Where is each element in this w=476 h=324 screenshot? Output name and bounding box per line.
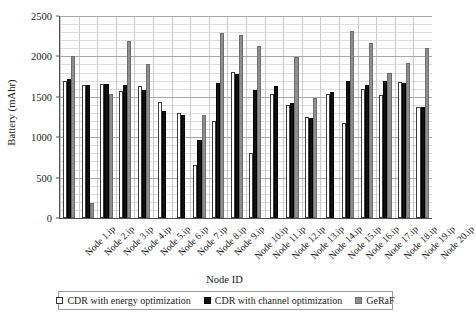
bar (369, 43, 373, 218)
bar (220, 33, 224, 218)
bar-group (134, 16, 153, 218)
legend-label: CDR with energy optimization (67, 295, 190, 306)
bar (274, 86, 278, 219)
bar-group (302, 16, 321, 218)
bar (294, 57, 298, 218)
bar (350, 31, 354, 218)
bar (146, 64, 150, 218)
legend-item[interactable]: CDR with channel optimization (204, 295, 342, 306)
bar-group (395, 16, 414, 218)
bar (406, 63, 410, 218)
bar-group (265, 16, 284, 218)
bar-group (339, 16, 358, 218)
bar (162, 111, 166, 218)
bar (90, 203, 94, 218)
legend-item[interactable]: GeRaF (355, 295, 394, 306)
y-tick-label: 2000 (31, 51, 52, 62)
legend-swatch-icon (204, 297, 211, 304)
bar-group (60, 16, 79, 218)
legend-swatch-icon (56, 297, 63, 304)
chart-legend: CDR with energy optimizationCDR with cha… (58, 291, 393, 310)
bar (387, 73, 391, 218)
bar-group (227, 16, 246, 218)
bar (425, 48, 429, 218)
y-tick-label: 0 (47, 213, 52, 224)
bar-group (209, 16, 228, 218)
bar-group (172, 16, 191, 218)
bar (71, 56, 75, 218)
bar-group (153, 16, 172, 218)
y-tick-label: 1500 (31, 91, 52, 102)
bar-group (376, 16, 395, 218)
legend-label: GeRaF (366, 295, 394, 306)
bar (86, 85, 90, 218)
bar-group (97, 16, 116, 218)
bar-group (320, 16, 339, 218)
x-axis-title: Node ID (0, 274, 449, 285)
bar-groups (60, 16, 432, 218)
bar-group (283, 16, 302, 218)
bar (109, 94, 113, 218)
bar-group (79, 16, 98, 218)
y-tick-label: 500 (36, 172, 52, 183)
bar-group (190, 16, 209, 218)
bar-group (116, 16, 135, 218)
bar-group (246, 16, 265, 218)
bar-group (413, 16, 432, 218)
y-tick-label: 2500 (31, 11, 52, 22)
bar (239, 35, 243, 218)
bar (202, 115, 206, 218)
y-tick-label: 1000 (31, 132, 52, 143)
bar (330, 92, 334, 218)
y-axis-title-text: Battery (mAhr) (6, 79, 17, 145)
bar (313, 98, 317, 218)
bar (181, 115, 185, 218)
bar (127, 41, 131, 218)
x-axis-tick-labels: Node 1.ipNode 2.ipNode 3.ipNode 4.ipNode… (59, 219, 431, 281)
bar (257, 46, 261, 218)
legend-label: CDR with channel optimization (215, 295, 342, 306)
y-axis-tick-labels: 05001000150020002500 (18, 14, 56, 218)
legend-swatch-icon (355, 297, 362, 304)
plot-area (59, 16, 432, 219)
legend-item[interactable]: CDR with energy optimization (56, 295, 190, 306)
bar-group (358, 16, 377, 218)
